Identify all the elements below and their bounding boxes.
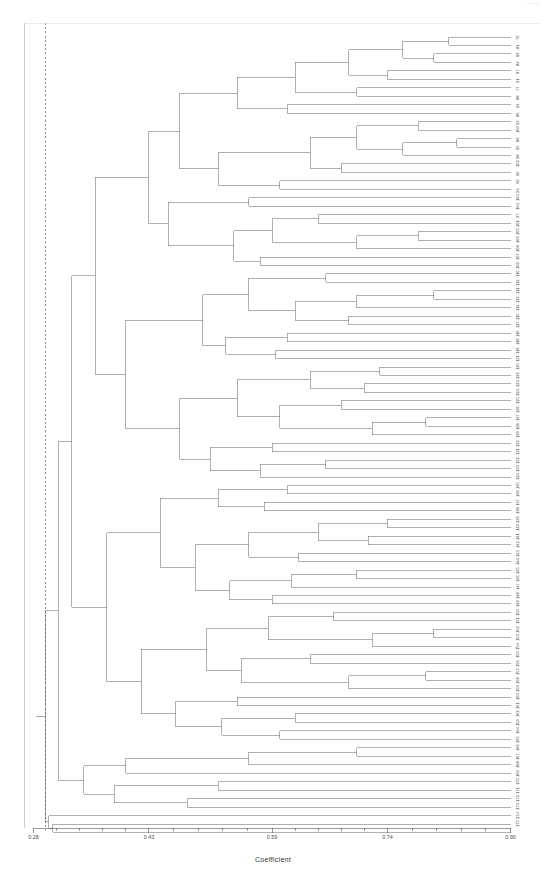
leaf-label: 110 (515, 271, 520, 278)
leaf-label: 100 (515, 127, 520, 134)
leaf-label: 79 (515, 36, 520, 41)
leaf-label: 161 (515, 702, 520, 709)
leaf-label: 91 (515, 78, 520, 83)
axis-title: Coefficient (0, 855, 546, 864)
leaf-label: 93 (515, 188, 520, 193)
leaf-label: 167 (515, 753, 520, 760)
leaf-label: 96 (515, 171, 520, 176)
axis-tick-label: 0.28 (28, 834, 39, 840)
leaf-label: 89 (515, 137, 520, 142)
leaf-label: 86 (515, 112, 520, 117)
leaf-label: 163 (515, 719, 520, 726)
leaf-label: 117 (515, 322, 520, 329)
leaf-label: 139 (515, 516, 520, 523)
leaf-label: 149 (515, 601, 520, 608)
leaf-label: 137 (515, 499, 520, 506)
leaf-label: 84 (515, 61, 520, 66)
leaf-label: 94 (515, 104, 520, 109)
leaf-label: 158 (515, 677, 520, 684)
leaf-label: 129 (515, 431, 520, 438)
leaf-label: 108 (515, 245, 520, 252)
leaf-label: 116 (515, 330, 520, 337)
leaf-label: 111 (515, 288, 520, 294)
leaf-label: 152 (515, 626, 520, 633)
leaf-label: 147 (515, 584, 520, 591)
leaf-label: 121 (515, 355, 520, 362)
leaf-label: 150 (515, 609, 520, 616)
leaf-label: 136 (515, 491, 520, 498)
leaf-label: 141 (515, 533, 520, 540)
leaf-label: 148 (515, 592, 520, 599)
axis-tick-label: 0.74 (382, 834, 393, 840)
leaf-label: 140 (515, 524, 520, 531)
leaf-label: 174 (515, 812, 520, 819)
leaf-label: 175 (515, 821, 520, 828)
leaf-label: 145 (515, 567, 520, 574)
leaf-label: 166 (515, 744, 520, 751)
leaf-label: 115 (515, 313, 520, 320)
leaf-label: 143 (515, 550, 520, 557)
leaf-label: 95 (515, 146, 520, 151)
leaf-label: 103 (515, 194, 520, 201)
leaf-label: 146 (515, 575, 520, 582)
leaf-label: 82 (515, 53, 520, 58)
leaf-label: 77 (515, 87, 520, 92)
leaf-label: 165 (515, 736, 520, 743)
leaf-label: 125 (515, 397, 520, 404)
leaf-label: 104 (515, 203, 520, 210)
leaf-label: 159 (515, 685, 520, 692)
leaf-label: 106 (515, 237, 520, 244)
leaf-label: 92 (515, 120, 520, 125)
leaf-label: 144 (515, 558, 520, 565)
leaf-label: 113 (515, 296, 520, 303)
axis-tick-label: 0.43 (144, 834, 155, 840)
leaf-label: 112 (515, 279, 520, 286)
leaf-label: 173 (515, 804, 520, 811)
leaf-label: 169 (515, 770, 520, 777)
leaf-label: 123 (515, 381, 520, 388)
leaf-label: 102 (515, 160, 520, 167)
leaf-label: 97 (515, 214, 520, 219)
leaf-label: 160 (515, 694, 520, 701)
leaf-label: 171 (515, 787, 520, 794)
leaf-label: 155 (515, 651, 520, 658)
leaf-label: 101 (515, 220, 520, 227)
leaf-label: 133 (515, 465, 520, 472)
leaf-label: 162 (515, 711, 520, 718)
leaf-label: 142 (515, 541, 520, 548)
leaf-label: 114 (515, 305, 520, 312)
axis-tick-label: 0.90 (505, 834, 516, 840)
leaf-label: 98 (515, 154, 520, 159)
leaf-label: 168 (515, 761, 520, 768)
leaf-label: 120 (515, 364, 520, 371)
leaf-label: 81 (515, 44, 520, 49)
leaf-label: 109 (515, 262, 520, 269)
axis-tick-label: 0.59 (267, 834, 278, 840)
leaf-label: 127 (515, 414, 520, 421)
leaf-label: 164 (515, 727, 520, 734)
leaf-label: 132 (515, 457, 520, 464)
leaf-label: 170 (515, 778, 520, 785)
leaf-label: 118 (515, 339, 520, 346)
leaf-label: 156 (515, 660, 520, 667)
leaf-label: 128 (515, 423, 520, 430)
leaf-label: 130 (515, 440, 520, 447)
dendrogram-figure: — — — 7981828487917788948692100899598102… (0, 0, 546, 894)
leaf-label: 135 (515, 482, 520, 489)
leaf-label: 122 (515, 372, 520, 379)
leaf-label: 153 (515, 634, 520, 641)
leaf-label: 107 (515, 254, 520, 261)
leaf-label: 138 (515, 507, 520, 514)
leaf-label: 157 (515, 668, 520, 675)
leaf-label: 172 (515, 795, 520, 802)
leaf-label: 124 (515, 389, 520, 396)
leaf-label: 87 (515, 70, 520, 75)
leaf-label: 131 (515, 448, 520, 455)
leaf-label: 126 (515, 406, 520, 413)
leaf-label: 105 (515, 228, 520, 235)
leaf-label: 99 (515, 180, 520, 185)
leaf-label: 151 (515, 617, 520, 624)
leaf-label: 134 (515, 474, 520, 481)
leaf-label-layer: 7981828487917788948692100899598102969993… (0, 0, 546, 894)
leaf-label: 119 (515, 347, 520, 354)
